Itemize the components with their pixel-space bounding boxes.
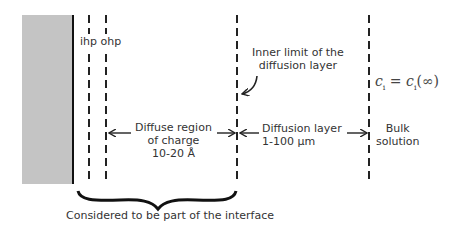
interface-brace-caption: Considered to be part of the interface [0, 209, 340, 222]
inner-limit-curved-arrow-icon [242, 76, 257, 94]
interface-curly-brace-icon [78, 191, 236, 209]
diagram-arrows-overlay [0, 0, 455, 225]
